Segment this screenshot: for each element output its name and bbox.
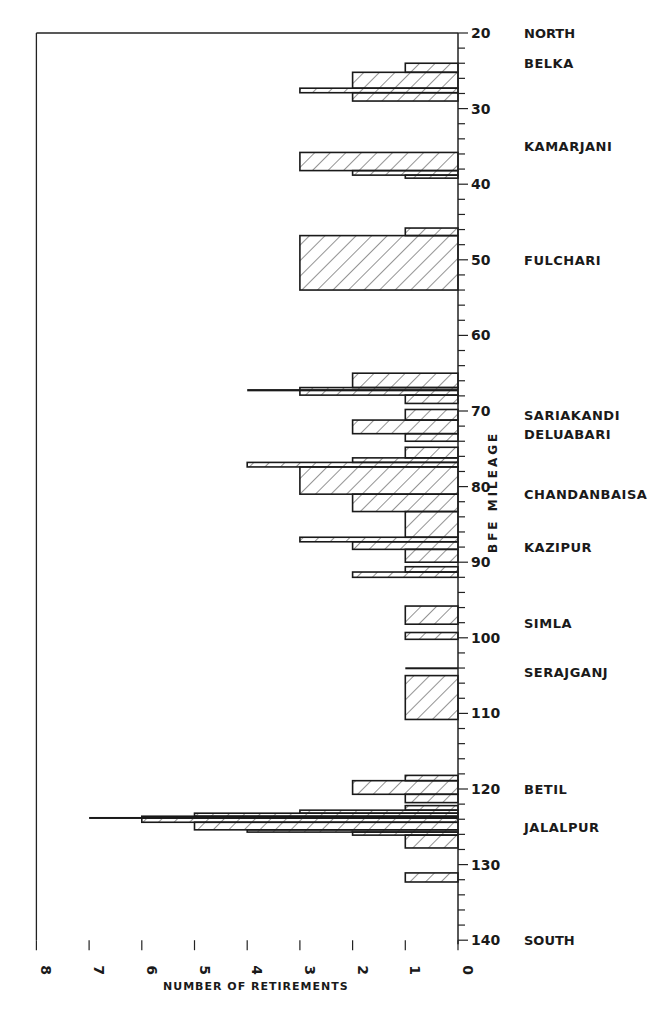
- bars: [89, 63, 458, 882]
- bar-segment: [405, 447, 458, 458]
- bar-segment: [405, 794, 458, 802]
- bar-segment: [353, 72, 458, 88]
- location-label: FULCHARI: [524, 253, 601, 268]
- bar-segment: [353, 93, 458, 101]
- y-tick-label: 140: [471, 932, 500, 948]
- bar-segment: [300, 236, 458, 290]
- y-tick-label: 90: [471, 554, 491, 570]
- x-tick-label: 5: [197, 965, 213, 975]
- y-axis-title: BFE MILEAGE: [486, 431, 500, 553]
- bar-segment: [405, 512, 458, 538]
- y-tick-label: 60: [471, 327, 491, 343]
- x-tick-label: 0: [460, 965, 476, 975]
- y-tick-label: 110: [471, 705, 500, 721]
- location-label: SIMLA: [524, 616, 572, 631]
- x-tick-label: 4: [249, 965, 265, 975]
- bar-segment: [405, 409, 458, 420]
- bar-segment: [353, 373, 458, 387]
- bar-segment: [353, 542, 458, 550]
- y-tick-label: 20: [471, 25, 491, 41]
- bar-segment: [405, 873, 458, 882]
- bar-segment: [405, 434, 458, 442]
- bar-segment: [195, 822, 459, 830]
- location-label: KAZIPUR: [524, 540, 592, 555]
- bar-segment-line: [405, 667, 458, 669]
- bar-segment-line: [247, 389, 458, 391]
- x-tick-label: 7: [91, 965, 107, 975]
- bar-segment: [405, 633, 458, 640]
- location-label: BETIL: [524, 782, 567, 797]
- bar-segment: [405, 835, 458, 848]
- bar-segment: [353, 420, 458, 434]
- bar-segment: [300, 467, 458, 494]
- retirements-chart: 2030405060708090100110120130140 87654321…: [0, 0, 666, 1014]
- bar-segment: [405, 63, 458, 72]
- y-tick-label: 70: [471, 403, 491, 419]
- x-axis-title: NUMBER OF RETIREMENTS: [163, 980, 349, 993]
- y-tick-label: 30: [471, 101, 491, 117]
- y-tick-label: 130: [471, 857, 500, 873]
- bar-segment: [405, 606, 458, 624]
- location-label: SARIAKANDI: [524, 408, 620, 423]
- bar-segment: [405, 228, 458, 236]
- x-tick-label: 8: [38, 965, 54, 975]
- location-label: CHANDANBAISA: [524, 487, 647, 502]
- north-label: NORTH: [524, 26, 575, 41]
- y-tick-label: 50: [471, 252, 491, 268]
- y-tick-label: 100: [471, 630, 500, 646]
- location-label: KAMARJANI: [524, 139, 612, 154]
- bar-segment: [353, 781, 458, 795]
- location-labels: BELKAKAMARJANIFULCHARISARIAKANDIDELUABAR…: [523, 56, 647, 835]
- x-tick-label: 2: [355, 965, 371, 975]
- bar-segment: [300, 152, 458, 170]
- location-label: JALALPUR: [523, 820, 600, 835]
- location-label: BELKA: [524, 56, 574, 71]
- bar-segment: [405, 676, 458, 720]
- south-label: SOUTH: [524, 933, 575, 948]
- bar-segment: [405, 549, 458, 562]
- x-tick-label: 3: [302, 965, 318, 975]
- bar-segment: [353, 572, 458, 577]
- x-tick-label: 1: [407, 965, 423, 975]
- location-label: SERAJGANJ: [524, 665, 608, 680]
- x-tick-label: 6: [144, 965, 160, 975]
- bar-segment: [405, 175, 458, 178]
- y-tick-label: 120: [471, 781, 500, 797]
- x-axis: 876543210: [36, 940, 476, 975]
- location-label: DELUABARI: [524, 427, 611, 442]
- bar-segment: [353, 494, 458, 511]
- y-tick-label: 40: [471, 176, 491, 192]
- bar-segment: [405, 395, 458, 403]
